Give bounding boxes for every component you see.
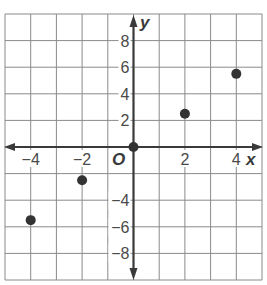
x-tick-label: −2 [73,151,91,168]
y-tick-label: −6 [111,219,129,236]
y-tick-label: 8 [121,33,130,50]
y-tick-label: 6 [121,59,130,76]
x-tick-label: −4 [22,151,40,168]
data-point [180,109,190,119]
y-tick-label: 2 [121,112,130,129]
data-point [77,175,87,185]
y-tick-label: −8 [111,245,129,262]
y-axis-arrow-up-icon [130,15,138,27]
x-tick-label: 4 [232,151,241,168]
data-point [129,142,139,152]
data-point [26,215,36,225]
data-point [231,69,241,79]
y-tick-label: 4 [121,86,130,103]
origin-label: O [112,150,125,169]
y-axis-label: y [139,13,151,32]
coordinate-plane: −4−2248642−4−6−8 x y O [0,0,267,285]
y-tick-label: −4 [111,192,129,209]
x-axis-label: x [245,150,257,169]
x-tick-label: 2 [180,151,189,168]
y-axis-arrow-down-icon [130,268,138,280]
x-axis-arrow-left-icon [4,143,15,151]
